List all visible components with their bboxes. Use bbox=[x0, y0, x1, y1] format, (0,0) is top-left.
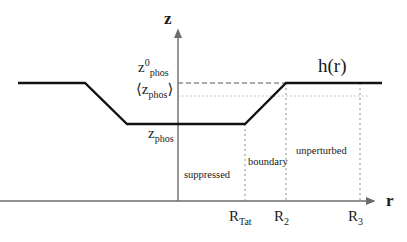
region-label-unperturbed: unperturbed bbox=[296, 146, 347, 157]
y-level-label-z-phos: zphos bbox=[148, 126, 174, 144]
curve-label-h-of-r: h(r) bbox=[318, 56, 346, 75]
x-axis-label: r bbox=[386, 192, 394, 209]
r3-base: R bbox=[348, 208, 358, 224]
z0-phos-base: z bbox=[138, 59, 145, 75]
z-phos-avg-base: z bbox=[142, 81, 149, 97]
z-phos-subscript: phos bbox=[155, 133, 174, 144]
r3-subscript: 3 bbox=[358, 216, 363, 227]
x-tick-label-r-tat: RTat bbox=[229, 209, 252, 227]
r-tat-subscript: Tat bbox=[239, 216, 252, 227]
r2-base: R bbox=[274, 208, 284, 224]
diagram-canvas bbox=[0, 0, 407, 242]
z0-phos-subscript: phos bbox=[150, 67, 169, 78]
z-phos-avg-subscript: phos bbox=[149, 89, 168, 100]
x-tick-label-r3: R3 bbox=[348, 209, 363, 227]
z-phos-base: z bbox=[148, 125, 155, 141]
y-axis-label: z bbox=[164, 10, 172, 27]
r2-subscript: 2 bbox=[284, 216, 289, 227]
y-level-label-z0-phos: z0phos bbox=[138, 58, 169, 78]
bracket-close: ⟩ bbox=[167, 81, 173, 97]
profile-diagram: z r h(r) z0phos ⟨zphos⟩ zphos RTat R2 R3… bbox=[0, 0, 407, 242]
region-label-boundary: boundary bbox=[248, 157, 288, 168]
profile-curve bbox=[18, 83, 382, 124]
x-tick-label-r2: R2 bbox=[274, 209, 289, 227]
y-level-label-z-phos-average: ⟨zphos⟩ bbox=[136, 82, 173, 100]
r-tat-base: R bbox=[229, 208, 239, 224]
region-label-suppressed: suppressed bbox=[184, 170, 230, 181]
